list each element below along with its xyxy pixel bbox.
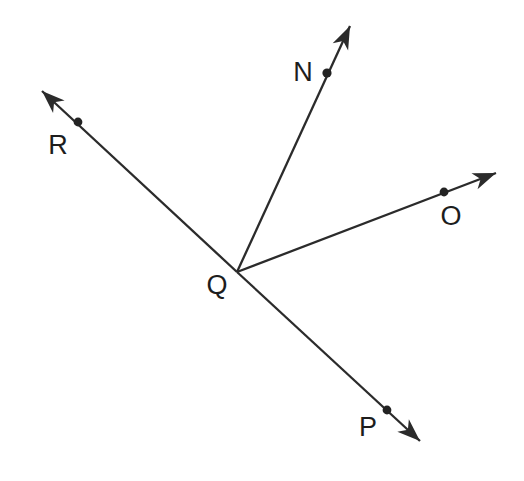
geometry-diagram-canvas: R P N O Q <box>0 0 524 481</box>
ray-qp-line <box>237 272 420 441</box>
point-n-label: N <box>293 57 313 87</box>
point-r-label: R <box>48 130 68 160</box>
point-o-dot <box>440 188 449 197</box>
point-r-dot <box>74 118 83 127</box>
ray-qr-group: R <box>42 91 237 272</box>
vertex-q-label: Q <box>206 270 227 300</box>
angle-diagram-svg: R P N O Q <box>0 0 524 481</box>
point-p-label: P <box>359 412 377 442</box>
ray-qr-line <box>42 91 237 272</box>
ray-qp-group: P <box>237 272 420 442</box>
point-p-dot <box>383 406 392 415</box>
point-n-dot <box>322 68 331 77</box>
point-o-label: O <box>440 201 461 231</box>
